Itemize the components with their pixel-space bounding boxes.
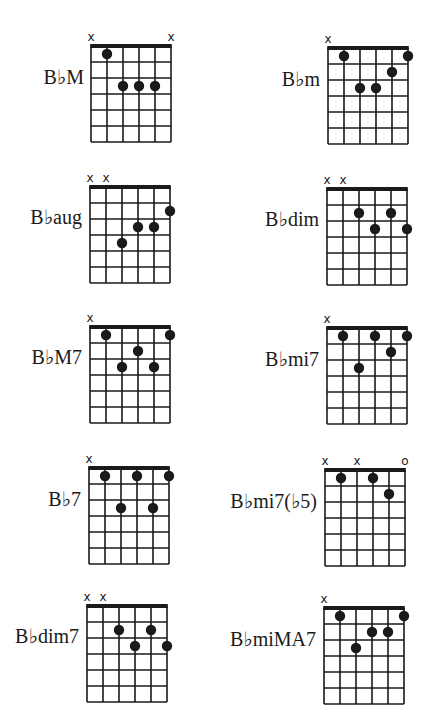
finger-dot-icon xyxy=(118,81,128,91)
finger-dot-icon xyxy=(370,331,380,341)
finger-dot-icon xyxy=(102,49,112,59)
fretboard-grid: xxo xyxy=(324,469,404,565)
muted-string-icon: x xyxy=(86,311,93,325)
nut-bar xyxy=(86,604,168,608)
finger-dot-icon xyxy=(354,208,364,218)
finger-dot-icon xyxy=(162,641,172,651)
nut-bar xyxy=(324,468,406,472)
finger-dot-icon xyxy=(165,206,175,216)
nut-bar xyxy=(323,606,405,610)
muted-string-icon: x xyxy=(320,592,327,606)
finger-dot-icon xyxy=(402,331,412,341)
chord-name: B♭M7 xyxy=(31,347,82,367)
finger-dot-icon xyxy=(132,471,142,481)
fretboard-grid: xx xyxy=(326,188,406,284)
nut-bar xyxy=(326,187,408,191)
chord-name: B♭mi7 xyxy=(265,349,319,369)
chord-name: B♭m xyxy=(282,69,320,89)
nut-bar xyxy=(326,326,408,330)
muted-string-icon: x xyxy=(339,173,346,187)
finger-dot-icon xyxy=(351,643,361,653)
fretboard-grid: x xyxy=(323,607,403,703)
muted-string-icon: x xyxy=(86,171,93,185)
chord-name: B♭miMA7 xyxy=(230,629,316,649)
chord-name: B♭dim xyxy=(265,209,319,229)
nut-bar xyxy=(89,185,171,189)
chord-name: B♭mi7(♭5) xyxy=(230,491,317,511)
muted-string-icon: x xyxy=(323,173,330,187)
muted-string-icon: x xyxy=(353,454,360,468)
finger-dot-icon xyxy=(354,363,364,373)
finger-dot-icon xyxy=(100,471,110,481)
nut-bar xyxy=(89,325,171,329)
fretboard-grid: x xyxy=(326,327,406,423)
finger-dot-icon xyxy=(149,222,159,232)
finger-dot-icon xyxy=(165,330,175,340)
finger-dot-icon xyxy=(134,81,144,91)
finger-dot-icon xyxy=(403,51,413,61)
muted-string-icon: x xyxy=(87,30,94,44)
muted-string-icon: x xyxy=(85,452,92,466)
open-string-icon: o xyxy=(401,454,408,468)
finger-dot-icon xyxy=(384,489,394,499)
finger-dot-icon xyxy=(386,208,396,218)
muted-string-icon: x xyxy=(99,590,106,604)
finger-dot-icon xyxy=(355,83,365,93)
finger-dot-icon xyxy=(149,362,159,372)
finger-dot-icon xyxy=(130,641,140,651)
finger-dot-icon xyxy=(335,611,345,621)
nut-bar xyxy=(90,44,172,48)
finger-dot-icon xyxy=(368,473,378,483)
finger-dot-icon xyxy=(114,625,124,635)
fretboard-grid: xx xyxy=(89,186,169,282)
muted-string-icon: x xyxy=(102,171,109,185)
finger-dot-icon xyxy=(370,224,380,234)
finger-dot-icon xyxy=(402,224,412,234)
muted-string-icon: x xyxy=(324,32,331,46)
finger-dot-icon xyxy=(383,627,393,637)
fretboard-grid: x xyxy=(89,326,169,422)
finger-dot-icon xyxy=(387,67,397,77)
finger-dot-icon xyxy=(338,331,348,341)
nut-bar xyxy=(88,466,170,470)
finger-dot-icon xyxy=(117,238,127,248)
finger-dot-icon xyxy=(146,625,156,635)
finger-dot-icon xyxy=(117,362,127,372)
muted-string-icon: x xyxy=(323,312,330,326)
finger-dot-icon xyxy=(133,346,143,356)
chord-name: B♭aug xyxy=(30,207,82,227)
finger-dot-icon xyxy=(133,222,143,232)
fretboard-grid: xx xyxy=(90,45,170,141)
finger-dot-icon xyxy=(339,51,349,61)
chord-name: B♭7 xyxy=(48,489,81,509)
muted-string-icon: x xyxy=(321,454,328,468)
fretboard-grid: x xyxy=(88,467,168,563)
fretboard-grid: x xyxy=(327,47,407,143)
fretboard-grid: xx xyxy=(86,605,166,701)
muted-string-icon: x xyxy=(83,590,90,604)
finger-dot-icon xyxy=(386,347,396,357)
finger-dot-icon xyxy=(150,81,160,91)
finger-dot-icon xyxy=(148,503,158,513)
finger-dot-icon xyxy=(367,627,377,637)
muted-string-icon: x xyxy=(167,30,174,44)
finger-dot-icon xyxy=(336,473,346,483)
finger-dot-icon xyxy=(164,471,174,481)
finger-dot-icon xyxy=(116,503,126,513)
chord-name: B♭dim7 xyxy=(15,626,79,646)
finger-dot-icon xyxy=(371,83,381,93)
finger-dot-icon xyxy=(399,611,409,621)
chord-name: B♭M xyxy=(43,67,84,87)
finger-dot-icon xyxy=(101,330,111,340)
nut-bar xyxy=(327,46,409,50)
